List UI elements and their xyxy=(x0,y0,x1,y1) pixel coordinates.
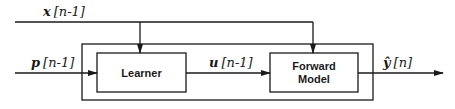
p-signal-label: p[n-1] xyxy=(31,55,75,70)
forward-model-label-line2: Model xyxy=(298,73,330,85)
learner-block: Learner xyxy=(97,53,186,92)
forward-model-block: Forward Model xyxy=(270,53,358,92)
learner-label: Learner xyxy=(121,67,162,79)
x-signal-label: x[n-1] xyxy=(42,4,86,19)
forward-model-label-line1: Forward xyxy=(292,60,335,72)
block-diagram: Learner Forward Model x[n-1] p[n-1] u[n-… xyxy=(0,0,455,109)
x-signal-path xyxy=(15,22,313,53)
y-hat-signal-label: ŷ[n] xyxy=(382,55,413,70)
u-signal-label: u[n-1] xyxy=(209,55,254,70)
